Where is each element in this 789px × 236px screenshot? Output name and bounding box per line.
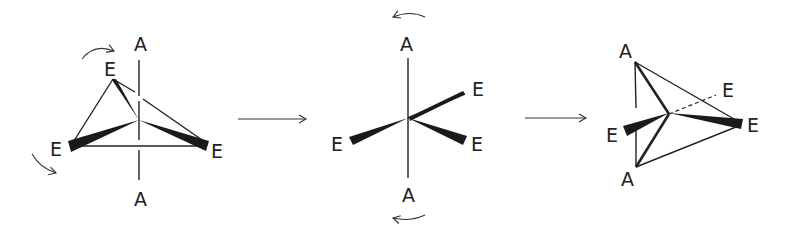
label-eq-left: E — [331, 133, 343, 155]
rotation-arrow-icon — [393, 215, 425, 219]
label-axial-top: A — [619, 40, 632, 62]
label-axial-bottom: A — [402, 184, 415, 206]
wedge-bond-left — [349, 118, 408, 145]
edge-axial-left-a — [635, 62, 636, 108]
label-axial-bottom: A — [134, 188, 147, 210]
label-axial-top: A — [134, 33, 147, 55]
wedge-bond-right — [669, 113, 743, 129]
edge-bottom-right — [636, 125, 741, 167]
label-axial-top: A — [400, 33, 413, 55]
bond-eq-upper-right-taper — [409, 91, 465, 121]
label-eq-left: E — [50, 138, 62, 160]
berry-pseudorotation-diagram: A E E E A A E E E A — [0, 0, 789, 236]
structure-final-tbp: A E E E A — [606, 40, 759, 190]
wedge-bond-lower-right — [408, 118, 467, 145]
wedge-bond-top — [112, 79, 139, 120]
structure-transition: A E E E A — [331, 14, 484, 220]
structure-initial-tbp: A E E E A — [32, 33, 223, 210]
label-eq-top: E — [104, 58, 116, 80]
label-eq-right: E — [747, 114, 759, 136]
label-axial-bottom: A — [621, 168, 634, 190]
label-eq-back: E — [722, 79, 734, 101]
wedge-bond-left — [68, 120, 139, 152]
label-eq-upper-right: E — [472, 78, 484, 100]
label-eq-lower-right: E — [471, 133, 483, 155]
label-eq-left: E — [606, 124, 618, 146]
label-eq-right: E — [211, 140, 223, 162]
bond-axial-top — [635, 62, 669, 114]
rotation-arrow-icon — [393, 14, 425, 18]
